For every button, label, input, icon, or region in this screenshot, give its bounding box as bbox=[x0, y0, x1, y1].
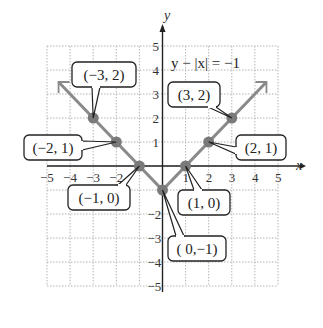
x-tick-label: −3 bbox=[86, 170, 100, 185]
y-tick-label: 3 bbox=[153, 87, 160, 102]
callout-label: ( 0,−1) bbox=[177, 241, 218, 258]
callout-label: (−1, 0) bbox=[79, 190, 120, 207]
x-axis-label: x bbox=[295, 158, 303, 173]
y-tick-label: −5 bbox=[148, 279, 162, 294]
x-tick-label: 2 bbox=[206, 170, 213, 185]
point-callout: (−1, 0) bbox=[68, 166, 139, 210]
callout-pointer bbox=[208, 107, 232, 118]
callout-label: (1, 0) bbox=[188, 195, 221, 212]
callout-label: (−2, 1) bbox=[33, 140, 74, 157]
x-tick-label: −5 bbox=[40, 170, 54, 185]
point-callout: (2, 1) bbox=[209, 135, 286, 160]
y-tick-label: 4 bbox=[153, 63, 160, 78]
y-axis-label: y bbox=[162, 8, 171, 23]
point-callout: (3, 2) bbox=[168, 82, 232, 118]
y-axis-arrow-icon bbox=[160, 24, 166, 32]
y-tick-label: 2 bbox=[153, 111, 160, 126]
graph: −5−4−3−21234554321−2−3−4−5 (−3, 2)(−2, 1… bbox=[0, 0, 323, 328]
callout-pointer bbox=[82, 141, 116, 150]
callout-label: (3, 2) bbox=[178, 87, 211, 104]
callout-label: (2, 1) bbox=[245, 140, 278, 157]
y-tick-label: −2 bbox=[148, 207, 162, 222]
y-tick-label: −3 bbox=[148, 231, 162, 246]
equation-label: y − |x| = −1 bbox=[171, 55, 240, 71]
point-callout: (−3, 2) bbox=[72, 62, 136, 118]
x-tick-label: 4 bbox=[252, 170, 259, 185]
x-tick-label: 5 bbox=[275, 170, 282, 185]
callout-label: (−3, 2) bbox=[84, 67, 125, 84]
point-callout: (−2, 1) bbox=[24, 135, 116, 160]
y-tick-label: −4 bbox=[148, 255, 162, 270]
callout-pointer bbox=[209, 142, 236, 154]
x-tick-label: 3 bbox=[229, 170, 236, 185]
x-tick-label: −4 bbox=[63, 170, 77, 185]
y-tick-label: 1 bbox=[153, 135, 160, 150]
y-tick-label: 5 bbox=[153, 39, 160, 54]
